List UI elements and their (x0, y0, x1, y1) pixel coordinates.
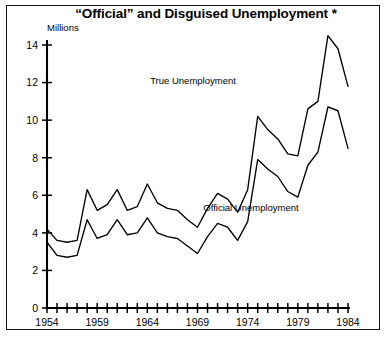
x-tick-label: 1969 (186, 316, 210, 328)
official-unemployment-label: Official Unemployment (203, 202, 299, 213)
chart-figure: “Official” and Disguised Unemployment * … (0, 0, 386, 337)
true-unemployment-label: True Unemployment (150, 75, 236, 86)
x-tick-label: 1959 (85, 316, 109, 328)
x-axis-ticks: 1954195919641969197419791984 (35, 303, 360, 328)
x-tick-label: 1984 (336, 316, 360, 328)
y-tick-label: 8 (32, 152, 38, 164)
y-tick-label: 0 (32, 302, 38, 314)
y-tick-label: 12 (26, 76, 38, 88)
x-tick-label: 1979 (286, 316, 310, 328)
series-annotations: True UnemploymentOfficial Unemployment (150, 75, 299, 213)
y-tick-label: 14 (26, 39, 38, 51)
y-tick-label: 2 (32, 264, 38, 276)
x-tick-label: 1974 (236, 316, 260, 328)
data-series-group (47, 36, 348, 258)
y-tick-label: 6 (32, 189, 38, 201)
x-tick-label: 1954 (35, 316, 59, 328)
y-axis-ticks: 02468101214 (26, 39, 52, 314)
y-tick-label: 10 (26, 114, 38, 126)
series-line (47, 36, 348, 243)
y-tick-label: 4 (32, 227, 38, 239)
plot-area: 02468101214 1954195919641969197419791984… (0, 0, 386, 337)
x-tick-label: 1964 (136, 316, 160, 328)
